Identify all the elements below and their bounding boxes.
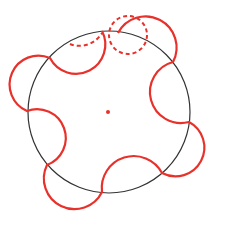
diagram-canvas bbox=[0, 0, 225, 227]
center-point bbox=[106, 110, 110, 114]
diagram-svg bbox=[0, 0, 225, 227]
